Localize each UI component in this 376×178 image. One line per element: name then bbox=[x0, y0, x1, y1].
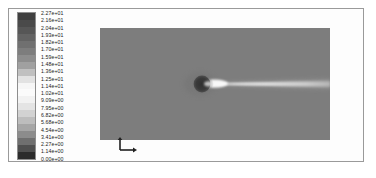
colorbar-swatch bbox=[18, 89, 35, 96]
colorbar-label: 1.48e+01 bbox=[41, 61, 81, 67]
coordinate-axis-triad bbox=[116, 137, 142, 159]
colorbar-label: 1.59e+01 bbox=[41, 54, 81, 60]
velocity-contour-field bbox=[100, 28, 330, 140]
colorbar-swatch bbox=[18, 103, 35, 110]
colorbar-swatch bbox=[18, 117, 35, 124]
colorbar-label: 2.16e+01 bbox=[41, 17, 81, 23]
colorbar-swatch bbox=[18, 41, 35, 48]
axis-triad-svg bbox=[116, 137, 142, 159]
colorbar-label: 1.70e+01 bbox=[41, 46, 81, 52]
colorbar-label: 9.09e+00 bbox=[41, 97, 81, 103]
colorbar-label: 2.04e+01 bbox=[41, 25, 81, 31]
field-grain-overlay bbox=[100, 28, 330, 140]
contour-colorbar: 2.27e+012.16e+012.04e+011.93e+011.82e+01… bbox=[17, 12, 77, 162]
colorbar-swatch bbox=[18, 124, 35, 131]
colorbar-swatch bbox=[18, 131, 35, 138]
colorbar-swatch bbox=[18, 152, 35, 159]
colorbar-label: 4.54e+00 bbox=[41, 127, 81, 133]
colorbar-swatch bbox=[18, 13, 35, 20]
colorbar-label: 1.25e+01 bbox=[41, 76, 81, 82]
colorbar-label: 7.95e+00 bbox=[41, 105, 81, 111]
colorbar-label: 3.41e+00 bbox=[41, 134, 81, 140]
colorbar-gradient bbox=[17, 12, 36, 160]
cfd-figure: 2.27e+012.16e+012.04e+011.93e+011.82e+01… bbox=[0, 0, 376, 178]
colorbar-swatch bbox=[18, 145, 35, 152]
colorbar-swatch bbox=[18, 48, 35, 55]
colorbar-swatch bbox=[18, 20, 35, 27]
colorbar-swatch bbox=[18, 83, 35, 90]
colorbar-label: 1.02e+01 bbox=[41, 90, 81, 96]
colorbar-swatch bbox=[18, 62, 35, 69]
colorbar-swatch bbox=[18, 96, 35, 103]
colorbar-label: 2.27e+01 bbox=[41, 10, 81, 16]
colorbar-swatch bbox=[18, 55, 35, 62]
colorbar-swatch bbox=[18, 138, 35, 145]
colorbar-label: 0.00e+00 bbox=[41, 156, 81, 162]
axis-y-arrowhead bbox=[118, 137, 123, 140]
colorbar-swatch bbox=[18, 110, 35, 117]
colorbar-label: 6.82e+00 bbox=[41, 112, 81, 118]
colorbar-swatch bbox=[18, 76, 35, 83]
axis-x-arrowhead bbox=[133, 148, 137, 153]
colorbar-label: 1.82e+01 bbox=[41, 39, 81, 45]
contour-svg bbox=[100, 28, 330, 140]
colorbar-label: 5.68e+00 bbox=[41, 119, 81, 125]
colorbar-swatch bbox=[18, 27, 35, 34]
colorbar-labels: 2.27e+012.16e+012.04e+011.93e+011.82e+01… bbox=[41, 10, 81, 162]
colorbar-swatch bbox=[18, 69, 35, 76]
colorbar-label: 1.14e+00 bbox=[41, 148, 81, 154]
colorbar-label: 2.27e+00 bbox=[41, 141, 81, 147]
colorbar-swatch bbox=[18, 34, 35, 41]
colorbar-label: 1.14e+01 bbox=[41, 83, 81, 89]
colorbar-label: 1.36e+01 bbox=[41, 68, 81, 74]
colorbar-label: 1.93e+01 bbox=[41, 32, 81, 38]
